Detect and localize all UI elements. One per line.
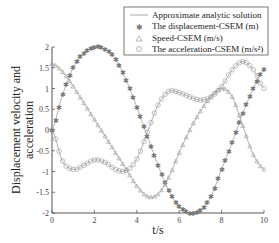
y-tick-label: -2 <box>42 209 49 218</box>
y-tick-label: -0.5 <box>36 147 49 156</box>
svg-text:✱: ✱ <box>212 185 218 193</box>
svg-text:✱: ✱ <box>229 139 235 147</box>
legend-analytic: Approximate analytic solution <box>152 10 262 20</box>
y-tick-label: -1.5 <box>36 188 49 197</box>
y-tick-label: 1 <box>45 85 49 94</box>
svg-text:✱: ✱ <box>215 175 221 183</box>
star-marker-icon: ✱ <box>136 23 143 32</box>
x-tick-label: 6 <box>177 216 181 225</box>
svg-text:✱: ✱ <box>53 117 59 125</box>
legend-acceleration: The acceleration-CSEM (m/s²) <box>152 44 263 54</box>
svg-text:acceleration: acceleration <box>22 101 36 159</box>
x-axis-label: t/s <box>152 223 164 237</box>
svg-text:✱: ✱ <box>208 193 214 201</box>
x-tick-label: 8 <box>220 216 224 225</box>
chart: 21.510.50-0.5-1-1.5-2 0246810 ✱✱✱✱✱✱✱✱✱✱… <box>0 0 279 243</box>
svg-text:✱: ✱ <box>233 129 239 137</box>
svg-text:✱: ✱ <box>250 85 256 93</box>
x-tick-label: 4 <box>135 216 139 225</box>
y-tick-label: 1.5 <box>39 64 49 73</box>
x-tick-label: 0 <box>50 216 54 225</box>
svg-text:✱: ✱ <box>247 93 253 101</box>
svg-text:✱: ✱ <box>134 104 140 112</box>
svg-text:✱: ✱ <box>141 123 147 131</box>
legend: Approximate analytic solution ✱ The disp… <box>124 7 268 55</box>
legend-speed: Speed-CSEM (m/s) <box>152 33 223 43</box>
x-tick-label: 10 <box>260 216 268 225</box>
svg-text:✱: ✱ <box>127 85 133 93</box>
svg-text:Displacement velocity and: Displacement velocity and <box>9 66 23 194</box>
svg-text:✱: ✱ <box>226 148 232 156</box>
svg-text:✱: ✱ <box>148 143 154 151</box>
svg-text:✱: ✱ <box>261 66 267 74</box>
svg-text:✱: ✱ <box>60 91 66 99</box>
analytic-curve <box>52 62 264 172</box>
svg-text:✱: ✱ <box>130 94 136 102</box>
legend-displacement: The displacement-CSEM (m) <box>152 21 258 31</box>
y-tick-label: 0.5 <box>39 105 49 114</box>
svg-text:✱: ✱ <box>151 152 157 160</box>
svg-text:✱: ✱ <box>219 166 225 174</box>
y-axis-label: Displacement velocity and acceleration <box>9 66 36 194</box>
data-markers: ✱✱✱✱✱✱✱✱✱✱✱✱✱✱✱✱✱✱✱✱✱✱✱✱✱✱✱✱✱✱✱✱✱✱✱✱✱✱✱✱… <box>49 43 267 218</box>
svg-text:✱: ✱ <box>243 101 249 109</box>
y-tick-label: -1 <box>42 168 49 177</box>
x-tick-label: 2 <box>92 216 96 225</box>
y-tick-label: 2 <box>45 43 49 52</box>
svg-text:✱: ✱ <box>56 104 62 112</box>
svg-text:✱: ✱ <box>123 77 129 85</box>
svg-text:✱: ✱ <box>222 157 228 165</box>
svg-text:✱: ✱ <box>155 162 161 170</box>
svg-text:✱: ✱ <box>137 113 143 121</box>
svg-text:✱: ✱ <box>159 171 165 179</box>
